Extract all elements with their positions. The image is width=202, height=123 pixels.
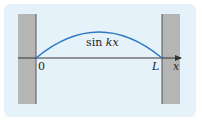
origin-label: 0	[38, 60, 45, 73]
length-label: L	[151, 60, 159, 73]
standing-wave-diagram: sin kx 0 L x	[0, 0, 202, 123]
left-wall	[18, 14, 36, 104]
right-wall	[162, 14, 180, 104]
x-axis-label: x	[173, 60, 180, 73]
curve-label: sin kx	[86, 36, 119, 49]
